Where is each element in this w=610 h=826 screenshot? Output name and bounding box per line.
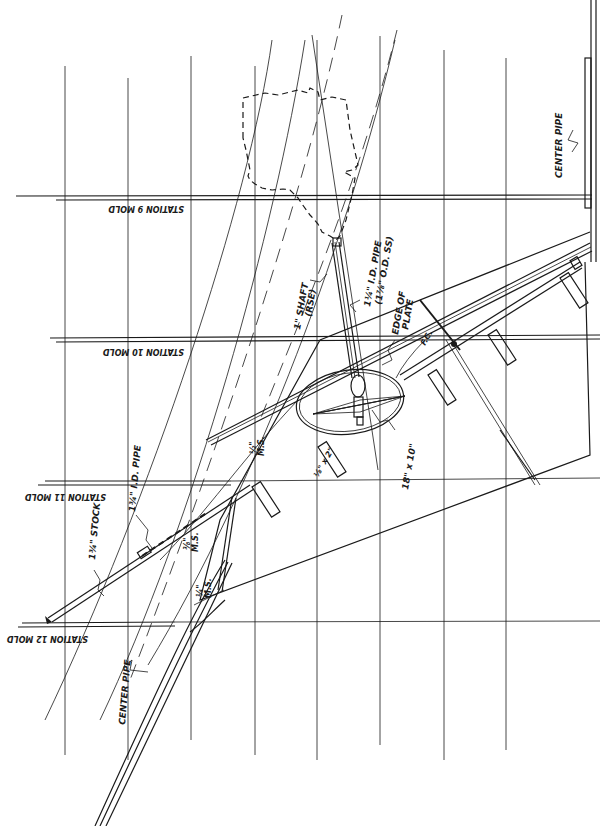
rudder-plate xyxy=(200,232,592,600)
ms-bar-label: ⅛" x 2" xyxy=(312,446,336,479)
stock-label: 1¾" STOCK xyxy=(87,501,102,560)
annotations: CENTER PIPE 1" SHAFT (RSE) 1¼" I.D. PIPE… xyxy=(87,112,564,725)
stock-pipe xyxy=(45,485,254,624)
hull-curves xyxy=(45,15,397,720)
technical-drawing: STATION 9 MOLD STATION 10 MOLD STATION 1… xyxy=(0,0,610,826)
center-pipe-lower xyxy=(95,497,236,826)
ellipse-dimension-label: 18" x 10" xyxy=(400,443,418,491)
ms-quarter-sub-label: M.S. xyxy=(204,578,213,598)
station-10-label: STATION 10 MOLD xyxy=(102,347,184,356)
pipe-left-label: 1¾" I.D. PIPE xyxy=(127,444,143,512)
station-12-label: STATION 12 MOLD xyxy=(6,634,88,643)
center-pipe-top-label: CENTER PIPE xyxy=(554,112,564,178)
ms-half-sub-label: M.S. xyxy=(257,436,266,456)
station-9-label: STATION 9 MOLD xyxy=(108,204,184,213)
aperture-outline xyxy=(243,88,358,240)
center-pipe-upper xyxy=(585,0,596,262)
strut-pipe xyxy=(400,257,582,485)
station-11-label: STATION 11 MOLD xyxy=(24,492,106,501)
fc-label: F.C. xyxy=(419,329,435,347)
center-pipe-bottom-label: CENTER PIPE xyxy=(117,658,133,725)
ms-sixteenth-sub-label: M.S. xyxy=(191,532,200,552)
station-labels: STATION 9 MOLD STATION 10 MOLD STATION 1… xyxy=(6,204,184,643)
station-lines xyxy=(16,195,600,627)
